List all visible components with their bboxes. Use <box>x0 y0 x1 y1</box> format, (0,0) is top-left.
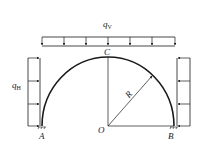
radius-label: R <box>122 89 134 101</box>
point-a-label: A <box>38 131 45 141</box>
vertical-load: qV <box>42 19 175 46</box>
semicircular-arch-diagram: qV qH R <box>0 0 203 150</box>
support-a <box>38 127 46 129</box>
qh-label: qH <box>12 80 22 91</box>
point-o-label: O <box>98 125 105 135</box>
point-c-label: C <box>104 47 111 57</box>
support-b <box>170 127 178 129</box>
qv-label: qV <box>103 19 113 30</box>
radius-line <box>108 76 152 126</box>
left-horizontal-load: qH <box>12 58 40 126</box>
right-horizontal-load <box>177 58 190 126</box>
point-b-label: B <box>168 131 174 141</box>
